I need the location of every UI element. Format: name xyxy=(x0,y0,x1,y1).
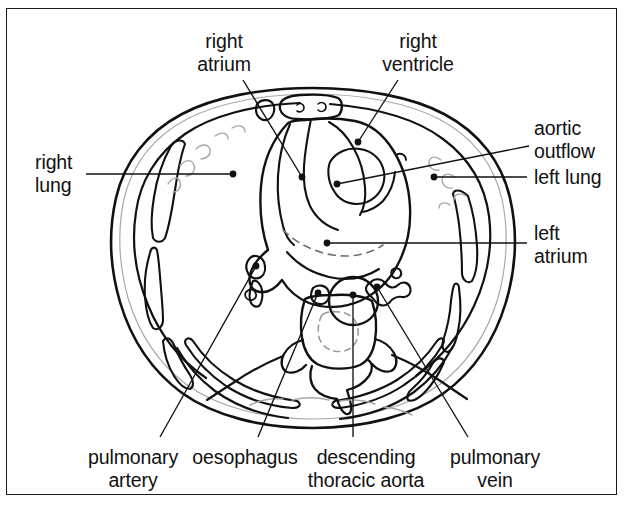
soft-tissue-marks-left xyxy=(168,126,245,192)
label-pulmonary-artery-line1: pulmonary xyxy=(88,446,178,469)
posterior-mediastinum-left xyxy=(207,356,283,400)
label-right-lung: rightlung xyxy=(35,151,72,197)
rib-left-1 xyxy=(152,140,185,241)
leader-line-pulmonary-artery xyxy=(160,266,256,437)
leader-dot-right-lung xyxy=(230,171,237,178)
septum-upper xyxy=(304,119,338,230)
label-descending-thoracic-aorta-line2: thoracic aorta xyxy=(308,469,425,492)
label-right-lung-line1: right xyxy=(35,151,72,174)
rib-left-4-long-inner xyxy=(185,338,300,408)
label-right-atrium-line1: right xyxy=(197,30,251,53)
leader-dot-left-lung xyxy=(431,174,438,181)
sternum xyxy=(280,95,342,120)
label-left-atrium-line2: atrium xyxy=(534,245,588,268)
label-right-ventricle-line1: right xyxy=(382,30,454,53)
label-pulmonary-vein-line2: vein xyxy=(450,469,540,492)
anatomy-figure: rightatriumrightventricleaorticoutflowri… xyxy=(0,0,626,510)
label-left-lung-line1: left lung xyxy=(534,166,601,189)
inner-chest-wall-right xyxy=(330,104,490,376)
leader-dot-pulmonary-vein xyxy=(374,284,381,291)
label-pulmonary-artery: pulmonaryartery xyxy=(88,446,178,492)
label-right-lung-line2: lung xyxy=(35,174,72,197)
leader-line-pulmonary-vein xyxy=(377,287,468,437)
label-left-atrium-line1: left xyxy=(534,222,588,245)
leader-dot-pulmonary-artery xyxy=(253,263,260,270)
sternum-marking-1 xyxy=(297,104,304,112)
label-descending-thoracic-aorta: descendingthoracic aorta xyxy=(308,446,425,492)
sternum-marking-2 xyxy=(318,103,326,112)
leader-dot-aortic-outflow xyxy=(334,181,341,188)
right-ventricle-boundary xyxy=(329,122,365,215)
leader-line-oesophagus xyxy=(258,293,318,437)
label-left-atrium: leftatrium xyxy=(534,222,588,268)
leader-dot-left-atrium xyxy=(324,240,331,247)
heart-outline xyxy=(249,119,410,307)
anatomy-line-art xyxy=(0,0,626,510)
label-aortic-outflow-line1: aortic xyxy=(534,117,595,140)
label-right-atrium: rightatrium xyxy=(197,30,251,76)
body-outline-skin xyxy=(111,88,515,428)
label-aortic-outflow-line2: outflow xyxy=(534,140,595,163)
leader-dot-right-ventricle xyxy=(355,139,362,146)
rib-right-1 xyxy=(453,190,477,282)
leader-dot-descending-thoracic-aorta xyxy=(350,292,357,299)
label-pulmonary-vein-line1: pulmonary xyxy=(450,446,540,469)
label-right-ventricle: rightventricle xyxy=(382,30,454,76)
label-descending-thoracic-aorta-line1: descending xyxy=(308,446,425,469)
label-right-ventricle-line2: ventricle xyxy=(382,53,454,76)
label-right-atrium-line2: atrium xyxy=(197,53,251,76)
label-pulmonary-vein: pulmonaryvein xyxy=(450,446,540,492)
label-pulmonary-artery-line2: artery xyxy=(88,469,178,492)
label-oesophagus: oesophagus xyxy=(192,446,297,469)
label-aortic-outflow: aorticoutflow xyxy=(534,117,595,163)
left-atrium-boundary xyxy=(287,252,379,279)
label-oesophagus-line1: oesophagus xyxy=(192,446,297,469)
label-left-lung: left lung xyxy=(534,166,601,189)
leader-dot-right-atrium xyxy=(299,174,306,181)
vertebral-body-inner-faint xyxy=(318,312,358,352)
leader-dot-oesophagus xyxy=(315,290,322,297)
